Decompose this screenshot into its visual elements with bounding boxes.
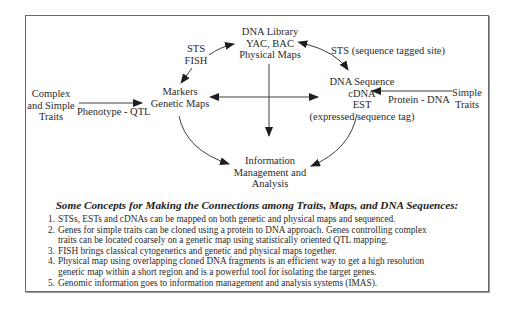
arrow-sts-fish-to-markers: [181, 68, 192, 83]
node-dna-library: DNA Library YAC, BAC Physical Maps: [232, 26, 308, 61]
node-complex-simple-traits: Complex and Simple Traits: [24, 88, 78, 123]
arrow-sts-fish-to-library: [209, 44, 234, 55]
node-markers-genetic-maps: Markers Genetic Maps: [146, 86, 214, 109]
concept-item: 3. FISH brings classical cytogenetics an…: [58, 246, 488, 257]
concept-item: 2. Genes for simple traits can be cloned…: [58, 225, 488, 246]
node-simple-traits: Simple Traits: [450, 87, 484, 110]
edge-label-protein-dna: Protein - DNA: [388, 94, 450, 106]
concepts-title: Some Concepts for Making the Connections…: [25, 199, 489, 211]
node-information-management: Information Management and Analysis: [230, 155, 310, 190]
edge-label-sts-fish: STS FISH: [183, 43, 209, 66]
concept-item: 4. Physical map using overlapping cloned…: [58, 256, 488, 277]
edge-label-phenotype-qtl: Phenotype - QTL: [77, 106, 151, 118]
concept-item: 1. STSs, ESTs and cDNAs can be mapped on…: [58, 214, 488, 225]
concept-item: 5. Genomic information goes to informati…: [58, 278, 488, 289]
concepts-list: 1. STSs, ESTs and cDNAs can be mapped on…: [48, 214, 488, 288]
arrow-markers-imas: [179, 116, 229, 164]
edge-label-sts-site: STS (sequence tagged site): [331, 45, 445, 57]
